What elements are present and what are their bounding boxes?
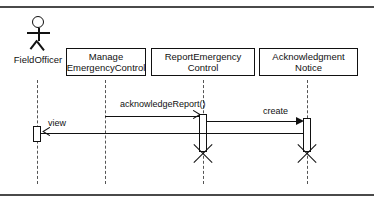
stick-figure-actor-icon	[24, 16, 52, 50]
frame-bottom-rule	[0, 194, 374, 196]
message-line-view	[41, 133, 303, 134]
frame-top-rule	[0, 6, 374, 8]
message-line-acknowledge-report	[105, 116, 201, 117]
destruction-x-icon-report-emergency-control	[190, 140, 216, 166]
actor-arms-icon	[27, 32, 50, 34]
actor-right-leg-icon	[37, 41, 45, 51]
participant-box-acknowledgment-notice[interactable]: Acknowledgment Notice	[259, 48, 358, 76]
sequence-diagram-canvas: FieldOfficer Manage EmergencyControl Rep…	[0, 0, 374, 202]
activation-bar-field-officer	[33, 126, 41, 142]
destruction-x-icon-acknowledgment-notice	[294, 140, 320, 166]
open-arrowhead-left-icon-view	[42, 127, 51, 136]
actor-body-icon	[38, 28, 40, 41]
actor-head-icon	[32, 16, 44, 28]
actor-label-field-officer: FieldOfficer	[8, 54, 68, 65]
message-label-create: create	[263, 106, 288, 116]
message-line-create	[207, 121, 299, 122]
participant-box-manage-emergency-control[interactable]: Manage EmergencyControl	[66, 48, 146, 76]
message-label-acknowledge-report: acknowledgeReport()	[120, 99, 206, 109]
lifeline-manage-emergency-control	[105, 80, 106, 184]
participant-box-report-emergency-control[interactable]: ReportEmergency Control	[151, 48, 255, 76]
